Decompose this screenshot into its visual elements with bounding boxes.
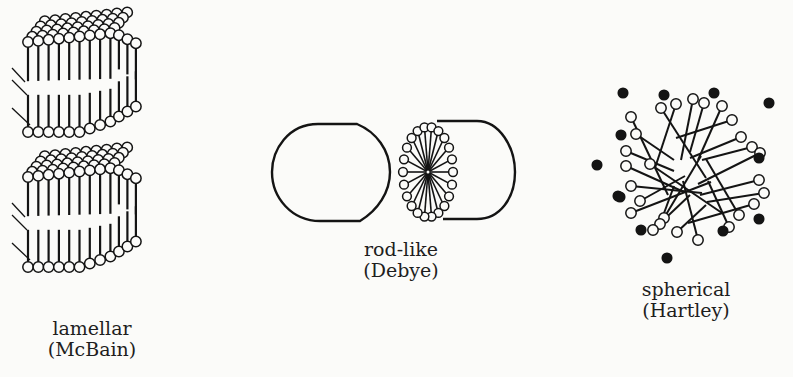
counterion-dot (754, 153, 764, 163)
rod-end-cap-left (272, 124, 390, 221)
headgroup-circle (400, 155, 409, 164)
headgroup-circle (736, 132, 746, 142)
headgroup-circle (43, 262, 53, 272)
headgroup-circle (54, 262, 64, 272)
headgroup-circle (626, 208, 636, 218)
headgroup-circle (85, 123, 95, 133)
lamellar-label: lamellar (McBain) (48, 318, 137, 360)
headgroup-circle (672, 227, 682, 237)
headgroup-circle (74, 262, 84, 272)
headgroup-circle (626, 112, 636, 122)
headgroup-circle (621, 161, 631, 171)
rod-like-model-author: (Debye) (363, 260, 438, 281)
headgroup-circle (693, 235, 703, 245)
hydrocarbon-tail (636, 134, 674, 160)
headgroup-circle (43, 127, 53, 137)
headgroup-circle (54, 34, 64, 44)
lamellar-bilayer-block (12, 7, 141, 137)
hydrocarbon-tail (676, 120, 732, 138)
headgroup-circle (74, 127, 84, 137)
headgroup-circle (671, 99, 681, 109)
counterion-dot (709, 88, 719, 98)
counterion-dot (764, 98, 774, 108)
spherical-model-author: (Hartley) (642, 300, 731, 321)
counterion-dot (592, 160, 602, 170)
headgroup-circle (23, 172, 33, 182)
edge-line (12, 203, 25, 217)
headgroup-circle (449, 168, 458, 177)
headgroup-circle (399, 168, 408, 177)
counterion-dot (636, 225, 646, 235)
headgroup-circle (648, 225, 658, 235)
edge-line (12, 68, 25, 82)
headgroup-circle (626, 181, 636, 191)
spherical-model-name: spherical (642, 279, 731, 300)
counterion-dot (662, 253, 672, 263)
spherical-label: spherical (Hartley) (642, 279, 731, 321)
edge-line (12, 215, 27, 230)
lamellar-bilayer-block (12, 142, 141, 272)
headgroup-circle (635, 196, 645, 206)
headgroup-circle (759, 188, 769, 198)
spherical-micelle-drawing (592, 88, 774, 263)
headgroup-circle (656, 103, 666, 113)
headgroup-circle (64, 167, 74, 177)
headgroup-circle (749, 199, 759, 209)
headgroup-circle (734, 210, 744, 220)
headgroup-circle (54, 127, 64, 137)
hydrocarbon-tail (690, 137, 741, 158)
headgroup-circle (400, 180, 409, 189)
headgroup-circle (754, 175, 764, 185)
headgroup-circle (407, 202, 416, 211)
headgroup-circle (688, 94, 698, 104)
headgroup-circle (131, 38, 141, 48)
hydrocarbon-tail (690, 103, 704, 152)
headgroup-circle (23, 127, 33, 137)
headgroup-circle (131, 173, 141, 183)
headgroup-circle (403, 143, 412, 152)
headgroup-circle (727, 115, 737, 125)
rod-like-micelle-drawing (272, 121, 515, 221)
headgroup-circle (74, 166, 84, 176)
headgroup-circle (64, 127, 74, 137)
headgroup-circle (717, 101, 727, 111)
counterion-dot (616, 130, 626, 140)
counterion-dot (754, 214, 764, 224)
headgroup-circle (95, 120, 105, 130)
headgroup-circle (95, 164, 105, 174)
headgroup-circle (445, 143, 454, 152)
headgroup-circle (131, 236, 141, 246)
headgroup-circle (43, 35, 53, 45)
headgroup-circle (631, 129, 641, 139)
lamellar-micelle-drawing (12, 7, 141, 272)
headgroup-circle (64, 32, 74, 42)
counterion-dot (618, 88, 628, 98)
lamellar-model-name: lamellar (48, 318, 137, 339)
counterion-dot (718, 226, 728, 236)
headgroup-circle (645, 159, 655, 169)
headgroup-circle (131, 101, 141, 111)
headgroup-circle (23, 262, 33, 272)
micelle-core (427, 171, 430, 174)
headgroup-circle (33, 36, 43, 46)
headgroup-circle (85, 258, 95, 268)
headgroup-circle (445, 192, 454, 201)
headgroup-circle (33, 262, 43, 272)
headgroup-circle (43, 170, 53, 180)
headgroup-circle (85, 165, 95, 175)
headgroup-circle (33, 127, 43, 137)
edge-line (12, 80, 27, 95)
headgroup-circle (23, 37, 33, 47)
lamellar-model-author: (McBain) (48, 339, 137, 360)
headgroup-circle (440, 134, 449, 143)
rod-like-label: rod-like (Debye) (363, 239, 438, 281)
headgroup-circle (699, 98, 709, 108)
headgroup-circle (95, 29, 105, 39)
headgroup-circle (54, 169, 64, 179)
headgroup-circle (74, 31, 84, 41)
headgroup-circle (33, 171, 43, 181)
headgroup-circle (448, 155, 457, 164)
headgroup-circle (403, 192, 412, 201)
headgroup-circle (85, 30, 95, 40)
headgroup-circle (95, 255, 105, 265)
